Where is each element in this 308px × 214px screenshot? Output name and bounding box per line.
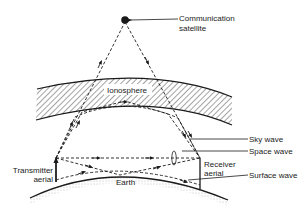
space-wave-paths — [56, 158, 200, 175]
receiver-label-line1: Receiver — [204, 160, 236, 169]
satellite-label-line2: satellite — [179, 24, 206, 33]
transmitter-label-line1: Transmitter — [6, 166, 53, 175]
space-wave-label: Space wave — [249, 147, 293, 156]
sky-wave-label: Sky wave — [249, 135, 283, 144]
satellite-label-line1: Communication — [179, 14, 235, 23]
receiver-label-line2: aerial — [204, 169, 224, 178]
surface-wave-label: Surface wave — [249, 171, 297, 180]
earth-label: Earth — [116, 178, 135, 187]
transmitter-label-line2: aerial — [6, 175, 53, 184]
ionosphere-label: Ionosphere — [107, 86, 147, 95]
